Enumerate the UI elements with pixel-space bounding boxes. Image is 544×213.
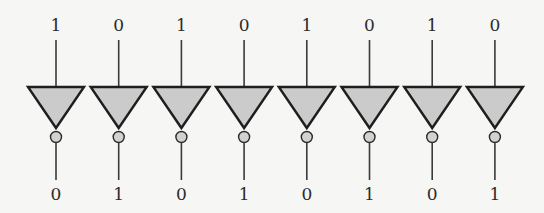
output-label: 1 [239, 184, 250, 204]
not-gate-1: 10 [28, 15, 84, 204]
inversion-bubble-icon [51, 132, 62, 143]
output-label: 1 [113, 184, 124, 204]
inversion-bubble-icon [489, 132, 500, 143]
not-gate-5: 10 [279, 15, 335, 204]
input-label: 1 [301, 15, 312, 35]
output-label: 0 [176, 184, 187, 204]
not-gate-6: 01 [342, 15, 398, 204]
input-label: 1 [176, 15, 187, 35]
input-label: 1 [51, 15, 62, 35]
inversion-bubble-icon [427, 132, 438, 143]
inversion-bubble-icon [301, 132, 312, 143]
output-label: 1 [489, 184, 500, 204]
input-label: 0 [239, 15, 250, 35]
inverter-triangle-icon [91, 87, 147, 128]
inverter-triangle-icon [279, 87, 335, 128]
inverter-triangle-icon [216, 87, 272, 128]
input-label: 0 [489, 15, 500, 35]
inverter-array-diagram: 1001100110011001 [0, 0, 544, 213]
inverter-triangle-icon [342, 87, 398, 128]
not-gate-7: 10 [404, 15, 460, 204]
input-label: 1 [427, 15, 438, 35]
not-gate-8: 01 [467, 15, 523, 204]
inversion-bubble-icon [364, 132, 375, 143]
inverter-triangle-icon [404, 87, 460, 128]
not-gate-2: 01 [91, 15, 147, 204]
output-label: 1 [364, 184, 375, 204]
input-label: 0 [113, 15, 124, 35]
output-label: 0 [301, 184, 312, 204]
inverter-triangle-icon [28, 87, 84, 128]
input-label: 0 [364, 15, 375, 35]
inversion-bubble-icon [176, 132, 187, 143]
not-gate-3: 10 [153, 15, 209, 204]
not-gate-4: 01 [216, 15, 272, 204]
inverter-triangle-icon [153, 87, 209, 128]
inverter-triangle-icon [467, 87, 523, 128]
inversion-bubble-icon [113, 132, 124, 143]
output-label: 0 [427, 184, 438, 204]
output-label: 0 [51, 184, 62, 204]
inversion-bubble-icon [239, 132, 250, 143]
